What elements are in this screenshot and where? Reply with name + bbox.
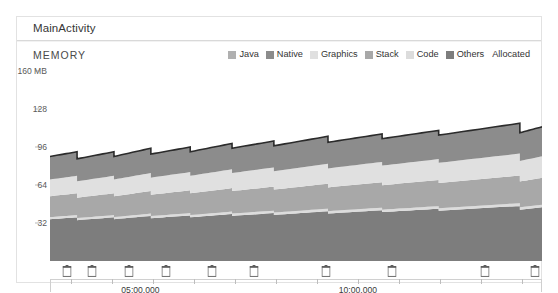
- memory-section-label: MEMORY: [33, 49, 86, 61]
- trash-can-icon[interactable]: [208, 263, 217, 275]
- x-axis-left-edge: [50, 279, 51, 292]
- x-axis-tick: [522, 279, 523, 284]
- page-title: MainActivity: [33, 22, 96, 34]
- x-axis-tick: [276, 279, 277, 284]
- x-axis-tick: [112, 279, 113, 284]
- legend-swatch-icon: [365, 51, 373, 59]
- legend-item-native[interactable]: Native: [266, 50, 303, 59]
- memory-profiler-panel: MainActivity MEMORY JavaNativeGraphicsSt…: [16, 16, 542, 283]
- y-axis-label: 96: [37, 142, 47, 152]
- legend-item-label: Others: [457, 50, 485, 59]
- chart-svg: [50, 71, 542, 261]
- trash-can-icon[interactable]: [250, 263, 259, 275]
- x-axis-tick: [71, 279, 72, 284]
- legend-item-graphics[interactable]: Graphics: [310, 50, 358, 59]
- x-axis-tick: [440, 279, 441, 284]
- legend-item-label: Stack: [376, 50, 399, 59]
- x-axis-tick: [317, 279, 318, 284]
- legend-swatch-icon: [228, 51, 236, 59]
- trash-can-icon[interactable]: [321, 263, 330, 275]
- legend-swatch-icon: [310, 51, 318, 59]
- gc-event-strip: [50, 261, 542, 279]
- trash-can-icon[interactable]: [161, 263, 170, 275]
- x-axis-right-edge: [541, 279, 542, 292]
- x-axis-tick: [235, 279, 236, 284]
- trash-can-icon[interactable]: [481, 263, 490, 275]
- y-axis-label: 64: [37, 180, 47, 190]
- header-divider-shadow: [17, 41, 541, 42]
- x-axis: 05:00.00010:00.000: [50, 279, 542, 293]
- x-axis-rule: [50, 279, 542, 280]
- y-axis: 326496128160 MB: [17, 71, 50, 261]
- memory-profiler-screenshot: MainActivity MEMORY JavaNativeGraphicsSt…: [0, 0, 558, 293]
- x-axis-time-label: 10:00.000: [339, 285, 377, 293]
- y-axis-label: 128: [33, 104, 47, 114]
- legend-item-label: Code: [417, 50, 439, 59]
- x-axis-tick: [358, 279, 359, 284]
- legend-item-label: Native: [277, 50, 303, 59]
- trash-can-icon[interactable]: [87, 263, 96, 275]
- legend-item-code[interactable]: Code: [406, 50, 439, 59]
- trash-can-icon[interactable]: [124, 263, 133, 275]
- legend-swatch-icon: [446, 51, 454, 59]
- x-axis-tick: [399, 279, 400, 284]
- legend-swatch-icon: [406, 51, 414, 59]
- x-axis-tick: [153, 279, 154, 284]
- legend-item-java[interactable]: Java: [228, 50, 258, 59]
- trash-can-icon[interactable]: [387, 263, 396, 275]
- x-axis-time-label: 05:00.000: [121, 285, 159, 293]
- legend-item-allocated[interactable]: Allocated: [492, 50, 530, 59]
- x-axis-tick: [194, 279, 195, 284]
- memory-area-chart[interactable]: [50, 71, 542, 261]
- chart-legend: JavaNativeGraphicsStackCodeOthersAllocat…: [228, 50, 530, 59]
- y-axis-label: 32: [37, 218, 47, 228]
- trash-can-icon[interactable]: [63, 263, 72, 275]
- x-axis-tick: [481, 279, 482, 284]
- legend-item-stack[interactable]: Stack: [365, 50, 399, 59]
- panel-header: MainActivity: [17, 17, 541, 41]
- legend-swatch-icon: [266, 51, 274, 59]
- legend-item-label: Java: [239, 50, 258, 59]
- trash-can-icon[interactable]: [530, 263, 539, 275]
- legend-item-others[interactable]: Others: [446, 50, 485, 59]
- y-axis-label: 160 MB: [17, 66, 47, 76]
- legend-item-label: Graphics: [321, 50, 358, 59]
